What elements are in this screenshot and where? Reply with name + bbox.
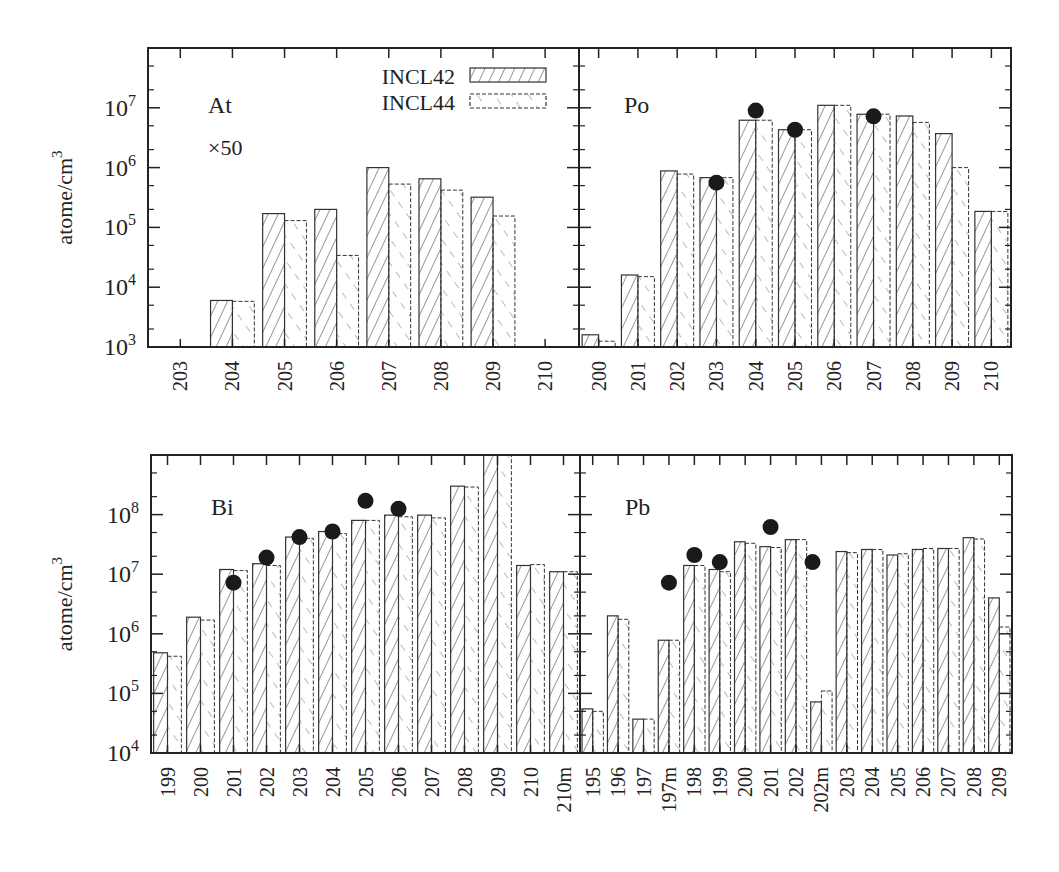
bar-incl44-209 — [999, 627, 1010, 753]
x-tick-label: 201 — [760, 767, 782, 797]
bar-incl42-209 — [484, 455, 498, 753]
bar-incl42-200 — [187, 617, 201, 753]
x-tick-label: 209 — [941, 361, 963, 391]
x-tick-label: 210 — [980, 361, 1002, 391]
legend-swatch — [470, 68, 546, 82]
x-tick-label: 209 — [482, 361, 504, 391]
panel-title: Pb — [625, 494, 650, 520]
bar-incl42-195 — [582, 709, 593, 753]
data-point-207 — [866, 108, 882, 124]
bar-incl44-201 — [771, 548, 782, 753]
x-tick-label: 206 — [388, 767, 410, 797]
bar-incl42-202 — [661, 171, 677, 347]
x-tick-label: 203 — [169, 361, 191, 391]
x-tick-label: 202 — [785, 767, 807, 797]
x-tick-label: 208 — [963, 767, 985, 797]
bar-incl44-197 — [644, 719, 655, 753]
x-tick-label: 197 — [633, 767, 655, 797]
x-tick-label: 204 — [221, 361, 243, 391]
y-tick-label: 107 — [104, 92, 136, 121]
x-tick-label: 197m — [658, 767, 680, 813]
scale-annotation: ×50 — [208, 135, 242, 160]
bar-incl42-201 — [220, 569, 234, 753]
bar-incl42-210 — [975, 211, 991, 347]
bar-incl42-206 — [912, 549, 923, 753]
x-tick-label: 208 — [454, 767, 476, 797]
bar-incl44-201 — [638, 277, 654, 347]
y-axis-label: atome/cm3 — [49, 150, 77, 244]
legend: INCL42INCL44 — [382, 64, 546, 115]
x-tick-label: 207 — [863, 361, 885, 391]
bar-incl44-205 — [285, 221, 307, 347]
x-tick-label: 199 — [157, 767, 179, 797]
bar-incl42-210m — [550, 572, 564, 753]
x-tick-label: 205 — [784, 361, 806, 391]
x-tick-label: 202 — [256, 767, 278, 797]
bar-incl44-206 — [337, 255, 359, 347]
bar-incl42-208 — [419, 179, 441, 347]
bar-incl44-202m — [821, 691, 832, 753]
bar-incl44-203 — [847, 553, 858, 753]
x-tick-label: 209 — [988, 767, 1010, 797]
bar-incl42-202m — [811, 702, 822, 753]
bar-incl42-199 — [154, 653, 168, 753]
data-point-203 — [708, 175, 724, 191]
bar-incl42-198 — [684, 565, 695, 753]
bar-incl44-201 — [234, 571, 248, 753]
legend-label: INCL42 — [382, 64, 455, 89]
x-tick-label: 205 — [355, 767, 377, 797]
y-tick-label: 106 — [107, 618, 139, 647]
panel-title: At — [208, 92, 232, 118]
bar-incl42-209 — [471, 197, 493, 347]
x-tick-label: 198 — [683, 767, 705, 797]
y-tick-label: 105 — [107, 677, 139, 706]
legend-label: INCL44 — [382, 90, 455, 115]
x-tick-label: 210 — [520, 767, 542, 797]
bar-incl42-196 — [607, 616, 618, 753]
x-tick-label: 202m — [810, 767, 832, 813]
bar-incl42-205 — [779, 130, 795, 347]
bar-incl42-206 — [315, 209, 337, 347]
data-point-203 — [292, 529, 308, 545]
bar-incl44-198 — [694, 565, 705, 753]
bar-incl42-207 — [938, 548, 949, 753]
y-tick-label: 107 — [107, 558, 139, 587]
bar-incl44-205 — [795, 130, 811, 347]
bar-incl42-210 — [517, 565, 531, 753]
x-tick-label: 204 — [322, 767, 344, 797]
bar-incl42-208 — [896, 116, 912, 347]
bar-incl44-195 — [593, 711, 604, 753]
y-tick-label: 104 — [104, 271, 136, 300]
bar-incl44-208 — [441, 190, 463, 347]
bar-incl42-207 — [857, 114, 873, 347]
data-point-197m — [661, 575, 677, 591]
data-point-205 — [787, 122, 803, 138]
data-point-204 — [325, 524, 341, 540]
bar-incl42-197m — [658, 640, 669, 753]
x-tick-label: 210 — [534, 361, 556, 391]
bar-incl42-205 — [887, 555, 898, 753]
bar-incl44-206 — [923, 548, 934, 753]
data-point-201 — [763, 519, 779, 535]
x-tick-label: 200 — [734, 767, 756, 797]
bar-incl44-200 — [745, 543, 756, 753]
bar-incl42-207 — [367, 168, 389, 347]
bar-incl44-209 — [493, 216, 515, 347]
bar-incl44-209 — [952, 168, 968, 347]
bar-incl42-199 — [709, 569, 720, 753]
bar-incl44-208 — [465, 487, 479, 753]
legend-swatch — [470, 94, 546, 108]
bar-incl44-208 — [974, 539, 985, 753]
data-point-206 — [391, 501, 407, 517]
bar-incl44-207 — [874, 114, 890, 347]
bar-incl42-204 — [319, 532, 333, 753]
bar-incl44-210 — [531, 565, 545, 753]
x-tick-label: 206 — [823, 361, 845, 391]
panel-title: Bi — [211, 494, 234, 520]
x-tick-label: 203 — [836, 767, 858, 797]
data-point-204 — [748, 103, 764, 119]
data-point-201 — [226, 575, 242, 591]
bar-incl44-204 — [232, 301, 254, 347]
y-tick-label: 108 — [107, 499, 139, 528]
bar-incl44-204 — [756, 120, 772, 347]
